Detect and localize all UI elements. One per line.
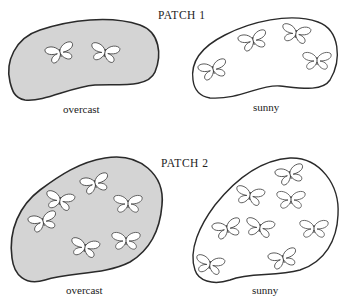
patch1-title: PATCH 1 <box>158 9 206 21</box>
patch2-overcast-label: overcast <box>66 284 103 296</box>
patch2-sunny-label: sunny <box>252 284 278 296</box>
patch2-title: PATCH 2 <box>161 157 209 169</box>
patch1-sunny-label: sunny <box>253 101 279 113</box>
patch1-overcast-label: overcast <box>63 103 100 115</box>
patch1-overcast-area <box>9 20 159 101</box>
butterfly-patch-diagram <box>0 0 349 300</box>
